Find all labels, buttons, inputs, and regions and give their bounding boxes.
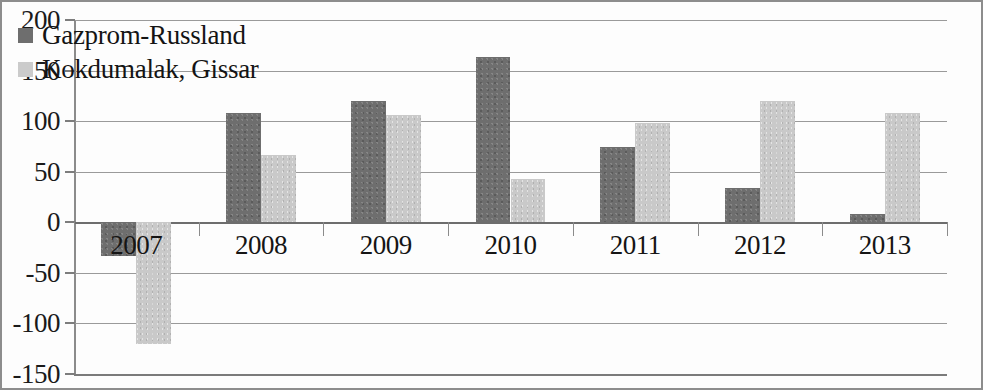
legend-label-0: Gazprom-Russland — [42, 22, 246, 49]
bar-2009-series0 — [351, 101, 386, 222]
bar-2011-series0 — [600, 147, 635, 222]
x-axis-label-2012: 2012 — [734, 232, 786, 259]
legend-swatch-icon-0 — [18, 28, 33, 43]
y-axis-label--100: -100 — [2, 310, 60, 337]
bar-2012-series0 — [725, 188, 760, 222]
gridline-100 — [74, 121, 947, 122]
category-tick-2007 — [199, 222, 200, 236]
y-axis-label-50: 50 — [2, 158, 60, 185]
legend-item-0[interactable]: Gazprom-Russland — [18, 18, 259, 52]
y-tick-mark-100 — [65, 120, 75, 122]
x-axis-label-2010: 2010 — [485, 232, 537, 259]
chart-figure: 200150100500-50-100-150 2007200820092010… — [0, 0, 983, 390]
bar-2008-series1 — [261, 155, 296, 223]
category-tick-2012 — [822, 222, 823, 236]
y-tick-mark--100 — [65, 322, 75, 324]
category-tick-2008 — [323, 222, 324, 236]
x-axis-label-2008: 2008 — [235, 232, 287, 259]
category-tick-2011 — [698, 222, 699, 236]
gridline-50 — [74, 172, 947, 173]
gridline-0 — [74, 222, 947, 224]
gridline--150 — [74, 374, 947, 376]
category-tick-2010 — [573, 222, 574, 236]
category-tick-2009 — [448, 222, 449, 236]
gridline--100 — [74, 323, 947, 324]
legend-item-1[interactable]: Kokdumalak, Gissar — [18, 52, 259, 86]
bar-2010-series0 — [476, 57, 511, 222]
x-axis-label-2007: 2007 — [110, 232, 162, 259]
legend-label-1: Kokdumalak, Gissar — [42, 56, 259, 83]
chart-legend: Gazprom-RusslandKokdumalak, Gissar — [18, 18, 259, 86]
x-axis-label-2011: 2011 — [610, 232, 661, 259]
y-axis-label-100: 100 — [2, 108, 60, 135]
bar-2008-series0 — [226, 113, 261, 222]
x-axis-label-2009: 2009 — [360, 232, 412, 259]
y-tick-mark-50 — [65, 171, 75, 173]
bar-2011-series1 — [635, 123, 670, 222]
bar-2010-series1 — [511, 179, 546, 222]
bar-2009-series1 — [386, 115, 421, 222]
y-tick-mark--150 — [65, 373, 75, 375]
y-axis-label--150: -150 — [2, 361, 60, 388]
legend-swatch-icon-1 — [18, 62, 33, 77]
bar-2013-series0 — [850, 214, 885, 222]
bar-2013-series1 — [885, 113, 920, 222]
bar-2012-series1 — [760, 101, 795, 222]
x-axis-label-2013: 2013 — [859, 232, 911, 259]
category-tick-2013 — [947, 222, 948, 236]
gridline--50 — [74, 273, 947, 274]
y-tick-mark--50 — [65, 272, 75, 274]
y-axis-label-0: 0 — [2, 209, 60, 236]
category-tick-start — [74, 222, 75, 236]
y-axis-label--50: -50 — [2, 259, 60, 286]
